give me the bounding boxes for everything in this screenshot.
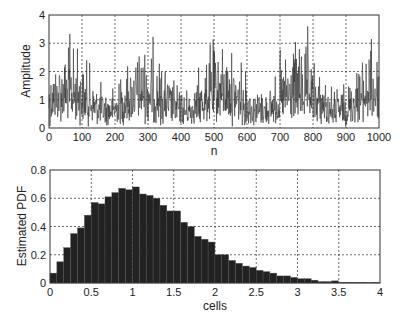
histogram-bar [187, 227, 194, 284]
histogram-bar [77, 228, 84, 283]
x-tick-label: 0 [47, 286, 53, 298]
pdf-histogram-plot: 00.511.522.533.54 00.20.40.60.8 cells Es… [15, 164, 383, 313]
y-axis-label: Amplitude [19, 44, 33, 98]
x-axis-label: n [211, 144, 218, 158]
x-tick-label: 900 [337, 131, 355, 143]
histogram-bar [64, 248, 71, 283]
amplitude-plot: 01002003004005006007008009001000 01234 n… [19, 9, 391, 158]
histogram-bar [263, 272, 270, 283]
histogram-bar [167, 211, 174, 283]
x-tick-label: 400 [172, 131, 190, 143]
histogram-bar [284, 276, 291, 283]
figure: 01002003004005006007008009001000 01234 n… [0, 0, 407, 327]
histogram-bar [160, 205, 167, 283]
histogram-bar [174, 211, 181, 283]
histogram-bar [208, 242, 215, 283]
x-tick-label: 600 [238, 131, 256, 143]
y-tick-label: 0.4 [31, 221, 46, 233]
histogram-bar [91, 202, 98, 283]
histogram-bar [304, 279, 311, 283]
histogram-bar [57, 262, 64, 283]
y-tick-label: 4 [39, 9, 45, 21]
histogram-bar [236, 263, 243, 283]
x-tick-label: 700 [271, 131, 289, 143]
histogram-bar [139, 194, 146, 283]
y-tick-label: 0.2 [31, 249, 46, 261]
x-axis-label: cells [203, 299, 227, 313]
histogram-bar [229, 260, 236, 283]
x-tick-label: 800 [304, 131, 322, 143]
x-tick-label: 200 [106, 131, 124, 143]
y-tick-label: 0.8 [31, 164, 46, 176]
y-tick-label: 0.6 [31, 192, 46, 204]
histogram-bar [201, 239, 208, 283]
histogram-bar [112, 193, 119, 283]
y-tick-label: 2 [39, 66, 45, 78]
histogram-bar [98, 204, 105, 283]
x-tick-label: 100 [73, 131, 91, 143]
histogram-bar [153, 198, 160, 283]
histogram-bar [249, 267, 256, 283]
histogram-bar [181, 222, 188, 283]
histogram-bar [222, 255, 229, 283]
y-axis-label: Estimated PDF [15, 186, 29, 267]
x-tick-label: 4 [377, 286, 383, 298]
histogram-bar [71, 234, 78, 283]
y-tick-label: 0 [40, 277, 46, 289]
x-tick-label: 0 [46, 131, 52, 143]
histogram-bar [277, 276, 284, 283]
x-tick-label: 0.5 [84, 286, 99, 298]
y-tick-labels: 00.20.40.60.8 [31, 164, 46, 289]
histogram-bar [146, 195, 153, 283]
histogram-bar [194, 236, 201, 283]
histogram-bar [50, 273, 57, 283]
x-tick-label: 1 [129, 286, 135, 298]
histogram-bar [126, 190, 133, 283]
x-tick-label: 3.5 [331, 286, 346, 298]
y-tick-label: 0 [39, 122, 45, 134]
x-tick-label: 300 [139, 131, 157, 143]
histogram-bar [256, 270, 263, 283]
histogram-bar [84, 215, 91, 283]
histogram-bar [119, 188, 126, 283]
histogram-bar [270, 273, 277, 283]
histogram-bar [291, 277, 298, 283]
y-tick-labels: 01234 [39, 9, 45, 134]
y-tick-label: 3 [39, 37, 45, 49]
histogram-bar [105, 197, 112, 283]
x-tick-labels: 01002003004005006007008009001000 [46, 131, 391, 143]
x-tick-label: 3 [294, 286, 300, 298]
x-tick-label: 1.5 [166, 286, 181, 298]
x-tick-label: 1000 [367, 131, 391, 143]
histogram-bar [215, 255, 222, 283]
x-tick-labels: 00.511.522.533.54 [47, 286, 383, 298]
histogram-bar [242, 266, 249, 283]
x-tick-label: 2 [212, 286, 218, 298]
x-tick-label: 500 [205, 131, 223, 143]
x-tick-label: 2.5 [249, 286, 264, 298]
histogram-bar [297, 279, 304, 283]
y-tick-label: 1 [39, 94, 45, 106]
histogram-bar [132, 187, 139, 283]
